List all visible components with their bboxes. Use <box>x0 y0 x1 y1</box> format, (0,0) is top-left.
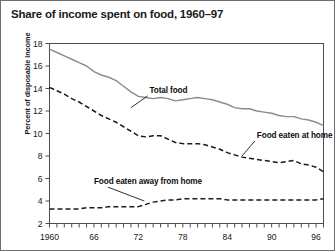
series-line-1 <box>50 87 324 171</box>
y-tick-label: 12 <box>33 106 43 116</box>
series-leader-line-0 <box>131 96 148 108</box>
series-leader-line-2 <box>108 187 144 201</box>
y-tick-label: 14 <box>33 84 43 94</box>
x-tick-label: 1960 <box>40 232 59 242</box>
y-tick-label: 10 <box>33 129 43 139</box>
series-label-0: Total food <box>149 86 187 95</box>
y-tick-label: 18 <box>33 39 43 49</box>
x-tick-label: 96 <box>311 232 321 242</box>
x-tick-label: 66 <box>89 232 99 242</box>
y-tick-label: 6 <box>38 174 43 184</box>
series-leader-line-1 <box>242 141 255 156</box>
x-tick-label: 72 <box>134 232 144 242</box>
series-line-2 <box>50 199 324 209</box>
x-tick-label: 78 <box>178 232 188 242</box>
y-tick-label: 8 <box>38 151 43 161</box>
x-tick-label: 84 <box>222 232 232 242</box>
y-tick-label: 2 <box>38 219 43 229</box>
y-tick-label: 16 <box>33 61 43 71</box>
series-label-1: Food eaten at home <box>257 131 333 140</box>
x-tick-label: 90 <box>267 232 277 242</box>
y-tick-label: 4 <box>38 196 43 206</box>
chart-figure: Share of income spent on food, 1960–97 P… <box>0 0 335 251</box>
series-label-2: Food eaten away from home <box>94 177 203 186</box>
chart-plot: 246810121416181960667278849096Total food… <box>1 1 335 251</box>
